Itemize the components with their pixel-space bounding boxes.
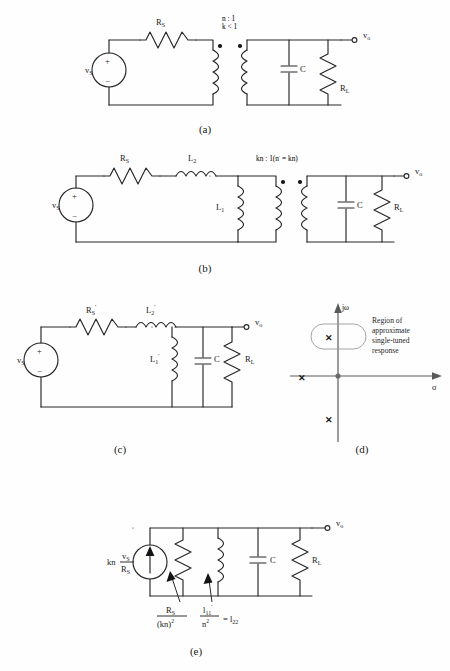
label-output-c: vo [255,317,262,328]
output-terminal-e [325,526,330,531]
output-terminal-a [352,38,357,43]
pointer-resistor-head-e [167,571,176,582]
label-capacitor-a: C [300,64,306,74]
label-output-a: vo [363,30,370,41]
label-turns-ratio-b: kn : 1(n′ = kn) [256,154,298,163]
figure-d: ✕ ✕ ✕ jω σ Region of approximate single-… [285,292,450,450]
label-capacitor-b: C [357,200,363,210]
label-output-b: vo [415,166,422,177]
pole-real-axis-d: ✕ [298,373,306,383]
label-reflected-rs-den-e: (kn)2 [157,618,174,629]
label-source-numerator-e: vS [122,551,130,562]
pointer-inductor-head-e [204,573,213,584]
caption-b: (b) [185,262,225,274]
imaginary-axis-arrow-d [334,303,342,313]
label-source-minus-a: − [106,76,111,86]
label-rs-a: RS [156,17,165,28]
label-l2-prime-c: L2′ [146,304,156,316]
label-source-prefix-e: kn [107,557,116,567]
label-source-plus-c: + [37,346,42,356]
label-reflected-l-den-e: n2 [202,618,209,629]
region-note-line3-d: single-tuned [372,336,410,345]
label-source-minus-c: − [38,366,43,376]
polarity-dot-secondary-b [298,180,302,184]
output-terminal-b [404,174,409,179]
label-source-plus-b: + [72,191,77,201]
region-note-line1-d: Region of [372,316,403,325]
label-load-e: RL [312,555,322,566]
origin-marker-d [335,373,340,378]
caption-e: (e) [176,645,216,657]
caption-d: (d) [342,443,382,455]
polarity-dot-secondary-a [238,44,242,48]
real-axis-arrow-d [432,372,442,380]
caption-c: (c) [100,443,140,455]
label-source-denominator-e: RS [121,564,130,575]
label-output-e: vo [336,518,343,529]
label-load-c: RL [245,354,255,365]
figure-b: vS + − RS L2 L1 kn : 1(n′ = kn) C RL vo [0,148,450,276]
pole-upper-complex-d: ✕ [325,333,333,343]
label-capacitor-c: C [214,354,220,364]
current-source-arrow-e [146,546,155,556]
pole-lower-complex-d: ✕ [325,415,333,425]
label-l1-b: L1 [216,202,224,213]
label-source-c: vS [17,355,25,366]
label-rs-prime-c: RS′ [86,304,97,316]
caption-a: (a) [185,123,225,135]
label-source-plus-a: + [105,56,110,66]
label-jomega-d: jω [341,303,349,312]
figure-e: kn vS RS RS (kn)2 l11′ n2 = l22 C RL vo [0,500,450,640]
label-coupling-a: k < 1 [222,22,238,31]
figure-page: vS + − RS n : 1 k < 1 C RL vo (a) [0,0,450,671]
output-terminal-c [244,325,249,330]
label-load-b: RL [394,202,404,213]
region-note-line2-d: approximate [372,326,411,335]
label-reflected-rs-num-e: RS [166,605,175,616]
label-source-a: vS [85,65,93,76]
label-reflected-l-num-e: l11′ [203,604,212,616]
polarity-dot-primary-b [281,180,285,184]
label-l1-prime-c: L1′ [150,353,160,365]
figure-a: vS + − RS n : 1 k < 1 C RL vo [0,8,450,140]
pointer-resistor-e [172,578,180,602]
figure-c: vS + − RS′ L2′ L1′ C RL vo [0,300,285,450]
label-sigma-d: σ [432,382,437,392]
label-l2-b: L2 [188,153,196,164]
label-reflected-l-equals-e: = l22 [223,614,238,625]
label-source-minus-b: − [73,211,78,221]
pointer-inductor-e [209,580,212,602]
label-source-b: vS [52,200,60,211]
label-load-a: RL [340,83,350,94]
polarity-dot-primary-a [218,44,222,48]
region-note-line4-d: response [372,346,399,355]
label-rs-b: RS [120,153,129,164]
label-capacitor-e: C [270,555,276,565]
